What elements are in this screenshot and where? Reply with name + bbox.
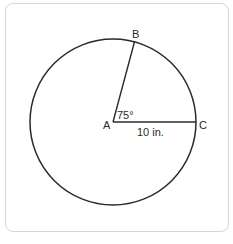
label-b: B xyxy=(132,28,139,40)
angle-label: 75° xyxy=(117,109,134,121)
radius-label: 10 in. xyxy=(137,126,164,138)
label-c: C xyxy=(199,119,207,131)
label-a: A xyxy=(103,119,111,131)
circle-diagram: A B C 75° 10 in. xyxy=(0,0,233,244)
